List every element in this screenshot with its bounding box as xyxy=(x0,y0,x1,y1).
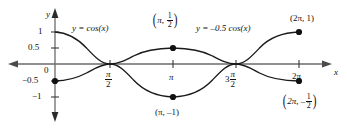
x-tick-label-pi: π xyxy=(169,73,174,82)
x-tick-3pi-over-2-denominator: 2 xyxy=(230,79,237,89)
point-pi-half xyxy=(170,45,176,51)
y-axis-label: y xyxy=(46,10,50,19)
x-tick-pi-over-2-denominator: 2 xyxy=(105,79,112,89)
y-tick-label-neg0_5: −0.5 xyxy=(22,76,38,85)
cosine-comparison-figure: 1 0.5 0 −0.5 −1 y x π 2 π 3 π 2 2π y = c… xyxy=(0,0,347,128)
point-label-twopi-neg-half-denominator: 2 xyxy=(306,101,312,110)
point-label-pi-half-numerator: 1 xyxy=(167,12,173,20)
y-tick-label-0: 0 xyxy=(44,66,49,75)
curve-label-neg-half-cos: y = –0.5 cos(x) xyxy=(196,24,251,33)
x-axis-label: x xyxy=(334,68,338,77)
y-axis xyxy=(52,8,59,122)
point-label-twopi-one: (2π, 1) xyxy=(290,14,314,23)
right-paren-glyph: ) xyxy=(174,13,178,27)
x-tick-pi-over-2-numerator: π xyxy=(105,70,112,79)
point-0-neg-half xyxy=(52,78,58,84)
x-tick-label-pi-over-2: π 2 xyxy=(105,70,112,89)
right-paren-glyph-2: ) xyxy=(313,94,317,108)
point-label-pi-half-comma: , xyxy=(162,16,167,25)
left-paren-glyph-2: ( xyxy=(283,94,287,108)
point-label-twopi-neg-half-x: 2π xyxy=(287,97,296,106)
point-label-twopi-neg-half-sign: – xyxy=(301,97,306,106)
x-tick-label-3pi-over-2: 3 π 2 xyxy=(225,70,236,89)
y-tick-label-1: 1 xyxy=(38,27,43,36)
x-tick-3pi-over-2-numerator: π xyxy=(230,70,237,79)
point-twopi-one xyxy=(296,29,302,35)
x-axis xyxy=(8,60,332,67)
point-label-twopi-neg-half-numerator: 1 xyxy=(306,93,312,101)
point-label-pi-half-denominator: 2 xyxy=(167,20,173,29)
x-tick-label-2pi: 2π xyxy=(292,72,301,81)
y-tick-label-neg1: −1 xyxy=(32,92,42,101)
point-pi-neg-one xyxy=(170,94,176,100)
curve-label-cos: y = cos(x) xyxy=(72,24,109,33)
point-label-twopi-neg-half: (2π, – 1 2 ) xyxy=(282,93,318,110)
point-label-pi-half: (π, 1 2 ) xyxy=(152,12,179,29)
point-label-pi-neg-one: (π, –1) xyxy=(155,108,179,117)
y-tick-label-0_5: 0.5 xyxy=(28,43,39,52)
left-paren-glyph: ( xyxy=(153,13,157,27)
